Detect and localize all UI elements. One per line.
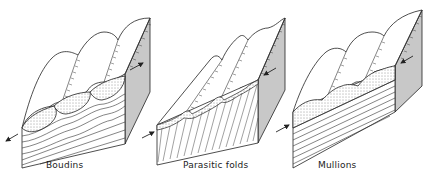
compression-arrow-left [276, 125, 289, 132]
mullions-block [276, 10, 422, 168]
panel-label-mullions: Mullions [318, 160, 356, 170]
structural-geology-figure: Boudins Parasitic folds Mullions [0, 0, 441, 184]
panel-label-boudins: Boudins [46, 160, 83, 170]
diagram-canvas [0, 0, 441, 184]
parasitic-folds-block [142, 18, 285, 165]
extension-arrow-left [6, 134, 18, 141]
panel-label-parasitic-folds: Parasitic folds [183, 160, 248, 170]
boudins-block [6, 18, 151, 168]
compression-arrow-left [142, 132, 154, 138]
